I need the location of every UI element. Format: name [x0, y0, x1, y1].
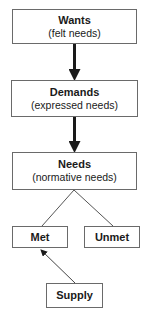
needs-subtitle: (normative needs)	[32, 171, 117, 184]
needs-box: Needs (normative needs)	[12, 152, 137, 190]
needs-title: Needs	[58, 158, 91, 171]
line-needs-to-unmet	[74, 190, 113, 226]
arrow-supply-to-met	[41, 250, 75, 283]
wants-box: Wants (felt needs)	[12, 9, 137, 44]
wants-title: Wants	[58, 14, 91, 27]
line-needs-to-met	[42, 190, 74, 226]
unmet-box: Unmet	[84, 226, 140, 248]
met-box: Met	[12, 226, 68, 248]
wants-subtitle: (felt needs)	[48, 27, 101, 40]
met-title: Met	[31, 231, 50, 244]
unmet-title: Unmet	[95, 231, 129, 244]
demands-title: Demands	[50, 86, 100, 99]
demands-subtitle: (expressed needs)	[31, 99, 118, 112]
supply-title: Supply	[56, 289, 93, 302]
demands-box: Demands (expressed needs)	[11, 80, 138, 117]
supply-box: Supply	[46, 283, 103, 308]
